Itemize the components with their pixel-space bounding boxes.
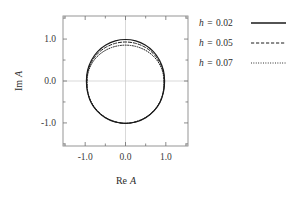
legend-symbol: h [199, 58, 204, 68]
x-axis-title-roman: Re [116, 175, 128, 186]
y-axis-title-roman: Im [13, 80, 24, 91]
x-tick-label: 1.0 [160, 152, 172, 162]
legend-value: 0.07 [216, 58, 233, 68]
legend-value: 0.02 [216, 18, 233, 28]
x-axis-title-text: ReA [116, 175, 137, 186]
y-tick-label: 1.0 [44, 34, 56, 44]
complex-plane-plot: -1.00.01.0 1.00.0-1.0 ReA ImA h=0.02h=0.… [0, 0, 294, 197]
legend-symbol: h [199, 18, 204, 28]
y-tick-label: 0.0 [44, 76, 56, 86]
legend-equals: = [207, 18, 212, 28]
y-tick-label: -1.0 [41, 118, 56, 128]
legend-value: 0.05 [216, 38, 233, 48]
y-axis-title-text: ImA [13, 70, 24, 91]
legend-symbol: h [199, 38, 204, 48]
x-tick-label: 0.0 [120, 152, 132, 162]
figure-background [0, 0, 294, 197]
x-tick-label: -1.0 [78, 152, 93, 162]
y-axis-title: ImA [13, 70, 24, 91]
figure-container: -1.00.01.0 1.00.0-1.0 ReA ImA h=0.02h=0.… [0, 0, 294, 197]
x-axis-title: ReA [116, 175, 137, 186]
x-axis-title-italic: A [129, 175, 137, 186]
y-axis-title-italic: A [13, 70, 24, 78]
legend-equals: = [207, 58, 212, 68]
legend-equals: = [207, 38, 212, 48]
